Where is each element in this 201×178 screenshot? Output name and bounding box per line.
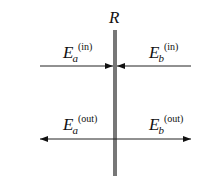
superscript: (in) <box>164 41 178 52</box>
label-e-b-in: Eb(in) <box>149 44 178 61</box>
subscript: a <box>72 124 78 136</box>
superscript: (in) <box>78 41 92 52</box>
label-e-a-in: Ea(in) <box>63 44 92 61</box>
label-e-b-out: Eb(out) <box>149 116 183 133</box>
subscript: a <box>72 52 78 64</box>
diagram-canvas <box>0 0 201 178</box>
superscript: (out) <box>164 113 183 124</box>
label-e-a-out: Ea(out) <box>63 116 97 133</box>
mirror-bar <box>113 30 117 176</box>
subscript: b <box>158 124 164 136</box>
mirror-label: R <box>109 9 119 26</box>
subscript: b <box>158 52 164 64</box>
superscript: (out) <box>78 113 97 124</box>
